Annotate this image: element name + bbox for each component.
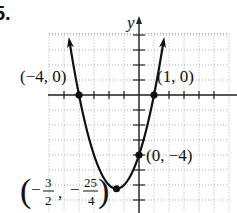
svg-text:): ) [98, 172, 109, 210]
x-intercept-right-label: (1, 0) [157, 67, 194, 86]
point-marker [150, 91, 157, 98]
svg-text:−: − [31, 180, 41, 199]
svg-text:4: 4 [88, 193, 95, 208]
parabola-graph: y (−4, 0) (1, 0) (0, −4) ( − 3 2 , − 25 … [0, 0, 237, 213]
point-marker [113, 185, 120, 192]
svg-text:(: ( [20, 172, 31, 210]
parabola-curve [69, 41, 163, 189]
svg-text:,: , [58, 183, 62, 202]
svg-text:3: 3 [45, 175, 52, 190]
svg-text:25: 25 [84, 175, 97, 190]
vertex-label: ( − 3 2 , − 25 4 ) [20, 172, 109, 210]
svg-text:−: − [70, 180, 80, 199]
curve-arrowheads [67, 37, 166, 48]
point-marker [135, 151, 142, 158]
y-axis-label: y [125, 13, 135, 32]
x-intercept-left-label: (−4, 0) [20, 67, 66, 86]
svg-text:2: 2 [45, 193, 52, 208]
point-marker [75, 91, 82, 98]
y-intercept-label: (0, −4) [146, 146, 192, 165]
